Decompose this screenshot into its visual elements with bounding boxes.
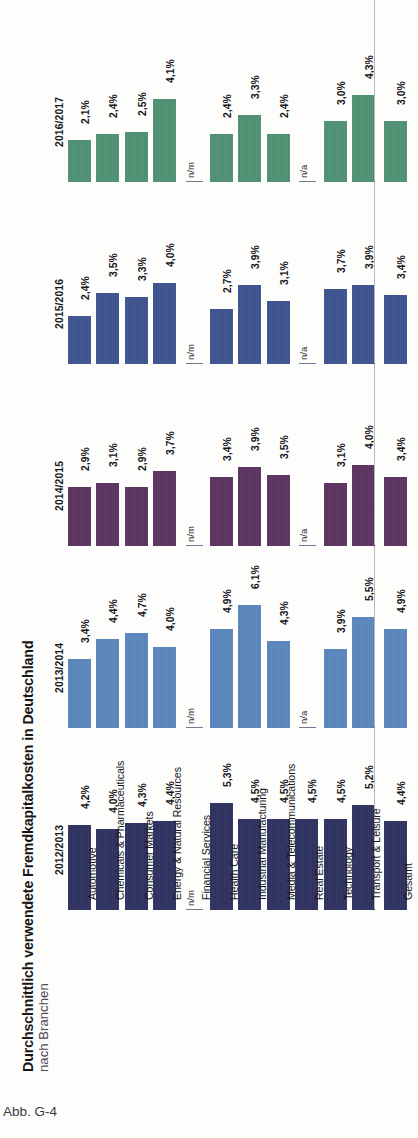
bar-group[interactable]: 3,5% — [267, 399, 290, 546]
series-bars: 2,1%2,4%2,5%4,1%n/m2,4%3,3%2,4%n/a3,0%4,… — [68, 0, 418, 182]
bar[interactable] — [96, 134, 119, 182]
bar-group[interactable]: 2,9% — [125, 399, 148, 546]
bar[interactable] — [384, 477, 407, 546]
missing-value-label: n/a — [298, 165, 309, 178]
bar[interactable] — [125, 132, 148, 183]
bar-group[interactable]: 3,4% — [210, 399, 233, 546]
bar-group[interactable]: 3,0% — [384, 35, 407, 182]
bar-group[interactable]: 3,5% — [96, 217, 119, 364]
series-panel: 2013/20143,4%4,4%4,7%4,0%n/m4,9%6,1%4,3%… — [42, 546, 418, 728]
bar[interactable] — [238, 115, 261, 182]
bar-group[interactable]: 2,9% — [68, 399, 91, 546]
bar[interactable] — [210, 629, 233, 728]
bar[interactable] — [267, 641, 290, 728]
bar[interactable] — [153, 471, 176, 546]
bar-group[interactable]: 3,1% — [267, 217, 290, 364]
bar-value-label: 3,0% — [396, 82, 407, 106]
bar-group[interactable]: 3,3% — [238, 35, 261, 182]
bar-group[interactable]: 3,4% — [384, 399, 407, 546]
bar[interactable] — [96, 483, 119, 546]
bar-group[interactable]: 4,3% — [267, 581, 290, 728]
bar[interactable] — [210, 134, 233, 182]
bar-group[interactable]: 4,4% — [96, 581, 119, 728]
bar-group[interactable]: 4,3% — [352, 35, 375, 182]
bar-group[interactable]: 2,4% — [210, 35, 233, 182]
bar[interactable] — [210, 477, 233, 546]
bar[interactable] — [352, 285, 375, 364]
bar-group[interactable]: 3,9% — [352, 217, 375, 364]
missing-value-label: n/m — [185, 344, 196, 360]
bar-group[interactable]: 4,7% — [125, 581, 148, 728]
bar[interactable] — [352, 465, 375, 546]
missing-value-label: n/a — [298, 347, 309, 360]
bar-group[interactable]: n/m — [182, 35, 205, 182]
bar-group[interactable]: 2,4% — [96, 35, 119, 182]
bar[interactable] — [324, 649, 347, 728]
bar-group[interactable]: 4,9% — [210, 581, 233, 728]
bar-group[interactable]: 3,1% — [96, 399, 119, 546]
bar-group[interactable]: 5,5% — [352, 581, 375, 728]
bar-group[interactable]: n/a — [295, 217, 318, 364]
bar[interactable] — [238, 285, 261, 364]
bar-group[interactable]: n/m — [182, 399, 205, 546]
bar[interactable] — [96, 293, 119, 364]
bar[interactable] — [68, 487, 91, 546]
bar[interactable] — [125, 487, 148, 546]
bar[interactable] — [267, 301, 290, 364]
bar-group[interactable]: n/a — [295, 581, 318, 728]
bar[interactable] — [267, 134, 290, 182]
bar-group[interactable]: 4,1% — [153, 35, 176, 182]
bar-group[interactable]: 3,4% — [384, 217, 407, 364]
bar-group[interactable]: 2,5% — [125, 35, 148, 182]
bar[interactable] — [153, 647, 176, 728]
bar-group[interactable]: 3,0% — [324, 35, 347, 182]
bar[interactable] — [352, 95, 375, 182]
bar-group[interactable]: 6,1% — [238, 581, 261, 728]
bar-group[interactable]: 3,1% — [324, 399, 347, 546]
category-axis-label: Transport & Leisure — [370, 808, 382, 900]
bar[interactable] — [68, 659, 91, 728]
bar-group[interactable]: 4,0% — [352, 399, 375, 546]
bar[interactable] — [324, 483, 347, 546]
bar[interactable] — [267, 475, 290, 546]
bar[interactable] — [324, 121, 347, 182]
bar-group[interactable]: 4,0% — [153, 217, 176, 364]
bar[interactable] — [68, 316, 91, 364]
figure-title-block: Durchschnittlich verwendete Fremdkapital… — [0, 0, 42, 1090]
bar[interactable] — [125, 297, 148, 364]
bar-group[interactable]: 2,4% — [267, 35, 290, 182]
bar-group[interactable]: 3,3% — [125, 217, 148, 364]
bar-group[interactable]: 4,0% — [153, 581, 176, 728]
bar-group[interactable]: 3,4% — [68, 581, 91, 728]
category-axis-label: Health Care — [228, 844, 240, 900]
series-year-label: 2014/2015 — [54, 461, 65, 511]
bar-group[interactable]: 3,7% — [153, 399, 176, 546]
bar[interactable] — [68, 140, 91, 182]
bar-group[interactable]: n/a — [295, 35, 318, 182]
bar-group[interactable]: 3,9% — [324, 581, 347, 728]
series-bars: 3,4%4,4%4,7%4,0%n/m4,9%6,1%4,3%n/a3,9%5,… — [68, 546, 418, 728]
missing-value-label: n/m — [185, 526, 196, 542]
bar-group[interactable]: n/a — [295, 399, 318, 546]
bar[interactable] — [238, 467, 261, 546]
bar-group[interactable]: n/m — [182, 217, 205, 364]
bar[interactable] — [384, 295, 407, 364]
bar[interactable] — [210, 309, 233, 364]
bar-group[interactable]: 2,4% — [68, 217, 91, 364]
bar[interactable] — [384, 121, 407, 182]
bar[interactable] — [384, 629, 407, 728]
bar[interactable] — [153, 283, 176, 364]
bar-group[interactable]: 2,1% — [68, 35, 91, 182]
bar-group[interactable]: n/m — [182, 581, 205, 728]
bar[interactable] — [324, 289, 347, 364]
bar-group[interactable]: 3,9% — [238, 217, 261, 364]
bar-group[interactable]: 2,7% — [210, 217, 233, 364]
bar[interactable] — [96, 639, 119, 728]
bar-group[interactable]: 3,9% — [238, 399, 261, 546]
bar[interactable] — [238, 605, 261, 728]
bar[interactable] — [352, 617, 375, 728]
bar[interactable] — [153, 99, 176, 182]
bar-group[interactable]: 4,9% — [384, 581, 407, 728]
bar-group[interactable]: 3,7% — [324, 217, 347, 364]
bar[interactable] — [125, 633, 148, 728]
